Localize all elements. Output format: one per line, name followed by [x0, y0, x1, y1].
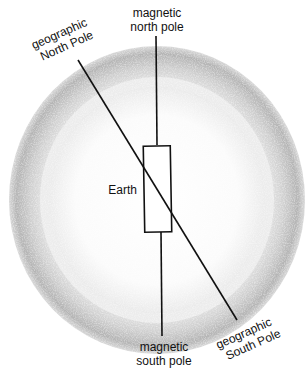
magnetic-north-label-1: magnetic: [133, 6, 182, 20]
magnetic-north-line: [156, 36, 157, 145]
magnetic-south-label-2: south pole: [136, 354, 192, 368]
earth-label: Earth: [108, 183, 137, 197]
earth-magnetic-field-diagram: magnetic north pole geographic North Pol…: [0, 0, 307, 374]
magnetic-south-label-1: magnetic: [140, 340, 189, 354]
magnetic-north-label-2: north pole: [130, 20, 184, 34]
magnetic-south-line: [161, 232, 162, 336]
